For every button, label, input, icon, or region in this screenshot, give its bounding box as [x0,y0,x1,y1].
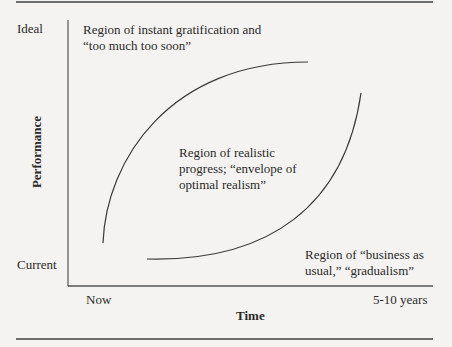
region-bottom-line1: Region of “business as [305,247,424,263]
y-tick-ideal: Ideal [17,21,43,37]
region-label-realistic-progress: Region of realistic progress; “envelope … [179,145,297,193]
y-tick-current: Current [17,257,57,273]
x-tick-5-10-years: 5-10 years [373,292,428,308]
x-axis-label: Time [236,308,265,324]
x-tick-now: Now [86,292,111,308]
region-top-line1: Region of instant gratification and [83,22,261,38]
region-bottom-line2: usual,” “gradualism” [305,263,424,279]
region-label-instant-gratification: Region of instant gratification and “too… [83,22,261,54]
region-middle-line2: progress; “envelope of [179,161,297,177]
bottom-rule [16,338,433,340]
y-axis-label: Performance [29,116,45,188]
region-middle-line3: optimal realism” [179,177,297,193]
region-top-line2: “too much too soon” [83,38,261,54]
region-middle-line1: Region of realistic [179,145,297,161]
region-label-business-as-usual: Region of “business as usual,” “graduali… [305,247,424,279]
